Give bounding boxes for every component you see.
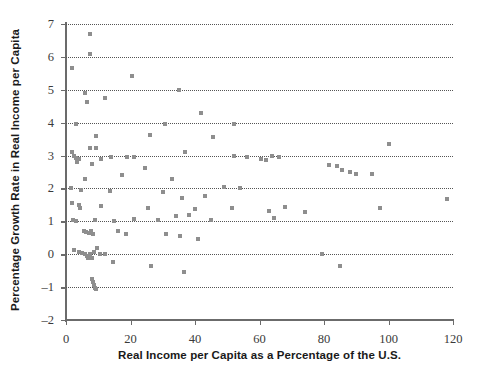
data-point — [83, 91, 87, 95]
data-point — [94, 146, 98, 150]
data-point — [90, 162, 94, 166]
data-point — [69, 186, 73, 190]
gridline — [66, 287, 453, 288]
data-point — [70, 66, 74, 70]
data-point — [164, 232, 168, 236]
data-point — [238, 186, 242, 190]
data-point — [378, 206, 382, 210]
data-point — [187, 213, 191, 217]
data-point — [109, 155, 113, 159]
gridline — [66, 57, 453, 58]
data-point — [90, 256, 94, 260]
data-point — [94, 287, 98, 291]
data-point — [193, 207, 197, 211]
data-point — [120, 173, 124, 177]
data-point — [335, 164, 339, 168]
y-tick: 3 — [61, 156, 66, 157]
y-tick: 1 — [61, 221, 66, 222]
data-point — [180, 196, 184, 200]
data-point — [98, 252, 102, 256]
y-tick: 7 — [61, 24, 66, 25]
data-point — [340, 168, 344, 172]
data-point — [103, 252, 107, 256]
x-tick-label: 0 — [63, 332, 69, 347]
x-tick-label: 100 — [379, 332, 398, 347]
data-point — [111, 260, 115, 264]
data-point — [209, 218, 213, 222]
data-point — [108, 189, 112, 193]
data-point — [264, 158, 268, 162]
gridline — [66, 24, 453, 25]
y-tick-label: 3 — [48, 148, 54, 163]
data-point — [74, 122, 78, 126]
data-point — [103, 96, 107, 100]
y-tick-label: –2 — [42, 313, 55, 328]
y-tick-label: –1 — [42, 280, 55, 295]
data-point — [199, 111, 203, 115]
data-point — [125, 155, 129, 159]
data-point — [99, 157, 103, 161]
data-point — [387, 142, 391, 146]
y-tick: 0 — [61, 254, 66, 255]
data-point — [267, 209, 271, 213]
data-point — [327, 163, 331, 167]
y-tick: –1 — [61, 287, 66, 288]
data-point — [196, 237, 200, 241]
y-axis-label: Percentage Growth Rate in Real Income pe… — [4, 0, 26, 340]
data-point — [143, 166, 147, 170]
data-point — [203, 194, 207, 198]
gridline — [66, 123, 453, 124]
data-point — [99, 204, 103, 208]
y-tick-label: 7 — [48, 17, 54, 32]
y-tick: 5 — [61, 90, 66, 91]
gridline — [66, 221, 453, 222]
data-point — [83, 177, 87, 181]
data-point — [178, 234, 182, 238]
data-point — [130, 74, 134, 78]
data-point — [74, 219, 78, 223]
y-tick-label: 5 — [48, 82, 54, 97]
data-point — [230, 206, 234, 210]
data-point — [222, 185, 226, 189]
data-point — [124, 232, 128, 236]
y-tick-label: 2 — [48, 181, 54, 196]
data-point — [79, 188, 83, 192]
scatter-plot-figure: Percentage Growth Rate in Real Income pe… — [0, 0, 483, 379]
data-point — [170, 177, 174, 181]
data-point — [78, 206, 82, 210]
data-point — [338, 264, 342, 268]
gridline — [66, 188, 453, 189]
data-point — [277, 155, 281, 159]
gridline — [66, 90, 453, 91]
data-point — [272, 216, 276, 220]
data-point — [93, 218, 97, 222]
x-tick-label: 60 — [253, 332, 266, 347]
data-point — [132, 155, 136, 159]
y-tick: 4 — [61, 123, 66, 124]
data-point — [320, 252, 324, 256]
data-point — [259, 157, 263, 161]
data-point — [156, 218, 160, 222]
x-tick: 80 — [324, 320, 325, 325]
data-point — [72, 248, 76, 252]
plot-area: –2–101234567 020406080100120 — [66, 24, 453, 320]
x-tick: 20 — [131, 320, 132, 325]
data-point — [283, 205, 287, 209]
x-tick: 0 — [66, 320, 67, 325]
data-point — [95, 246, 99, 250]
data-point — [232, 122, 236, 126]
data-point — [94, 134, 98, 138]
data-point — [132, 217, 136, 221]
data-point — [85, 100, 89, 104]
data-point — [245, 155, 249, 159]
data-point — [211, 135, 215, 139]
x-tick: 60 — [260, 320, 261, 325]
data-point — [177, 88, 181, 92]
data-point — [445, 197, 449, 201]
data-point — [70, 201, 74, 205]
y-tick-label: 4 — [48, 115, 54, 130]
x-tick-label: 120 — [444, 332, 463, 347]
data-point — [183, 150, 187, 154]
data-point — [116, 229, 120, 233]
y-tick-label: 1 — [48, 214, 54, 229]
